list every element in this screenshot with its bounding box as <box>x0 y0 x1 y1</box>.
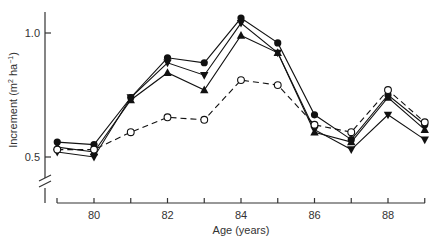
series-filled-triangle-up <box>53 31 429 155</box>
open-circle-marker <box>348 129 355 136</box>
open-circle-marker <box>311 121 318 128</box>
triangle-down-marker <box>200 72 208 80</box>
axes <box>39 12 425 203</box>
series-line <box>57 23 425 157</box>
y-ticks: 0.51.0 <box>25 27 51 163</box>
triangle-down-marker <box>347 146 355 154</box>
triangle-up-marker <box>237 31 245 39</box>
circle-marker <box>311 111 318 118</box>
triangle-up-marker <box>200 86 208 94</box>
open-circle-marker <box>127 129 134 136</box>
x-tick-label: 84 <box>235 209 247 221</box>
open-circle-marker <box>238 77 245 84</box>
x-tick-label: 82 <box>161 209 173 221</box>
x-ticks: 8082848688 <box>57 198 425 221</box>
x-tick-label: 88 <box>382 209 394 221</box>
open-circle-marker <box>385 87 392 94</box>
open-circle-marker <box>201 116 208 123</box>
axis-break-mark <box>39 181 51 187</box>
open-circle-marker <box>54 146 61 153</box>
x-tick-label: 80 <box>88 209 100 221</box>
series-line <box>57 80 425 150</box>
series-group <box>53 15 429 162</box>
series-line <box>57 36 425 153</box>
line-chart: 8082848688 0.51.0 Age (years) Increment … <box>0 0 437 242</box>
x-tick-label: 86 <box>308 209 320 221</box>
triangle-down-marker <box>421 136 429 144</box>
y-tick-label: 0.5 <box>25 151 40 163</box>
triangle-up-marker <box>163 68 171 76</box>
open-circle-marker <box>164 114 171 121</box>
open-circle-marker <box>274 82 281 89</box>
open-circle-marker <box>91 146 98 153</box>
x-axis-label: Age (years) <box>213 224 270 236</box>
series-filled-triangle-down <box>53 20 429 162</box>
y-tick-label: 1.0 <box>25 27 40 39</box>
circle-marker <box>201 59 208 66</box>
circle-marker <box>274 39 281 46</box>
open-circle-marker <box>421 119 428 126</box>
y-axis-label: Increment (m2 ha−1) <box>7 52 19 148</box>
